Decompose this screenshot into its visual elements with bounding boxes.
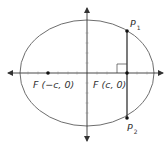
- ellipse-diagram: F (−c, 0) F (c, 0) P1 P2: [0, 0, 164, 156]
- p2-point: [125, 116, 129, 120]
- right-focus-label: F (c, 0): [93, 79, 126, 90]
- left-focus-point: [46, 71, 50, 75]
- left-focus-label: F (−c, 0): [33, 79, 74, 90]
- right-angle-marker: [117, 64, 127, 73]
- p2-label: P2: [127, 122, 138, 135]
- p1-point: [125, 29, 129, 33]
- right-focus-point: [125, 71, 129, 75]
- p1-label: P1: [130, 18, 141, 31]
